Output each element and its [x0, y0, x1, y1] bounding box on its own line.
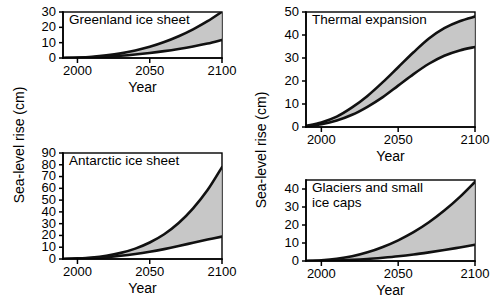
- y-tick-label-thermal-expansion-20: 20: [285, 73, 299, 88]
- x-axis-title-greenland-ice-sheet: Year: [128, 79, 157, 95]
- y-ticks-antarctic-ice-sheet: 0102030405060708090: [42, 145, 63, 266]
- y-tick-label-greenland-ice-sheet-10: 10: [42, 35, 56, 50]
- x-ticks-glaciers-and-small-ice-caps: 200020502100: [307, 261, 490, 281]
- y-tick-label-glaciers-and-small-ice-caps-0: 0: [292, 253, 299, 268]
- figure-canvas: 0102030200020502100YearGreenland ice she…: [0, 0, 494, 306]
- panel-title-greenland-ice-sheet: Greenland ice sheet: [69, 12, 190, 27]
- y-tick-label-glaciers-and-small-ice-caps-10: 10: [285, 235, 299, 250]
- x-tick-label-antarctic-ice-sheet-2100: 2100: [208, 264, 237, 279]
- panel-title-text-antarctic-ice-sheet: Antarctic ice sheet: [69, 153, 180, 168]
- y-tick-label-thermal-expansion-40: 40: [285, 27, 299, 42]
- panel-title-text-thermal-expansion: Thermal expansion: [312, 12, 427, 27]
- x-tick-label-thermal-expansion-2050: 2050: [384, 132, 413, 147]
- y-ticks-greenland-ice-sheet: 0102030: [42, 4, 63, 65]
- sea-level-rise-figure: 0102030200020502100YearGreenland ice she…: [0, 0, 494, 306]
- panel-title-line1-glaciers-and-small-ice-caps: Glaciers and small: [312, 180, 423, 195]
- y-tick-label-thermal-expansion-50: 50: [285, 4, 299, 19]
- panel-title-antarctic-ice-sheet: Antarctic ice sheet: [69, 153, 180, 168]
- panel-title-line2-glaciers-and-small-ice-caps: ice caps: [312, 195, 362, 210]
- panel-title-text-greenland-ice-sheet: Greenland ice sheet: [69, 12, 190, 27]
- y-tick-label-greenland-ice-sheet-20: 20: [42, 19, 56, 34]
- panel-title-thermal-expansion: Thermal expansion: [312, 12, 427, 27]
- panel-thermal-expansion: 01020304050200020502100YearThermal expan…: [285, 4, 490, 164]
- x-tick-label-glaciers-and-small-ice-caps-2100: 2100: [461, 266, 490, 281]
- y-axis-title-left-column: Sea-level rise (cm): [11, 87, 27, 204]
- x-tick-label-greenland-ice-sheet-2100: 2100: [208, 63, 237, 78]
- y-tick-label-thermal-expansion-0: 0: [292, 119, 299, 134]
- y-ticks-thermal-expansion: 01020304050: [285, 4, 306, 134]
- panel-glaciers-and-small-ice-caps: 010203040200020502100YearGlaciers and sm…: [285, 180, 490, 298]
- x-tick-label-thermal-expansion-2100: 2100: [461, 132, 490, 147]
- x-axis-title-thermal-expansion: Year: [376, 148, 405, 164]
- y-tick-label-greenland-ice-sheet-30: 30: [42, 4, 56, 19]
- x-ticks-antarctic-ice-sheet: 200020502100: [63, 259, 236, 279]
- y-tick-label-antarctic-ice-sheet-90: 90: [42, 145, 56, 160]
- y-tick-label-thermal-expansion-30: 30: [285, 50, 299, 65]
- x-tick-label-antarctic-ice-sheet-2000: 2000: [63, 264, 92, 279]
- y-tick-label-thermal-expansion-10: 10: [285, 96, 299, 111]
- y-axis-title-right-column: Sea-level rise (cm): [253, 92, 269, 209]
- y-ticks-glaciers-and-small-ice-caps: 010203040: [285, 181, 306, 268]
- x-tick-label-thermal-expansion-2000: 2000: [307, 132, 336, 147]
- x-ticks-greenland-ice-sheet: 200020502100: [63, 58, 236, 78]
- y-tick-label-glaciers-and-small-ice-caps-30: 30: [285, 199, 299, 214]
- y-tick-label-glaciers-and-small-ice-caps-20: 20: [285, 217, 299, 232]
- x-tick-label-glaciers-and-small-ice-caps-2000: 2000: [307, 266, 336, 281]
- x-tick-label-greenland-ice-sheet-2000: 2000: [63, 63, 92, 78]
- x-tick-label-glaciers-and-small-ice-caps-2050: 2050: [384, 266, 413, 281]
- x-ticks-thermal-expansion: 200020502100: [307, 127, 490, 147]
- panel-greenland-ice-sheet: 0102030200020502100YearGreenland ice she…: [42, 4, 237, 95]
- x-tick-label-antarctic-ice-sheet-2050: 2050: [135, 264, 164, 279]
- y-tick-label-glaciers-and-small-ice-caps-40: 40: [285, 181, 299, 196]
- x-axis-title-glaciers-and-small-ice-caps: Year: [376, 282, 405, 298]
- panel-antarctic-ice-sheet: 0102030405060708090200020502100YearAntar…: [42, 145, 237, 296]
- x-tick-label-greenland-ice-sheet-2050: 2050: [135, 63, 164, 78]
- y-tick-label-greenland-ice-sheet-0: 0: [49, 50, 56, 65]
- x-axis-title-antarctic-ice-sheet: Year: [128, 280, 157, 296]
